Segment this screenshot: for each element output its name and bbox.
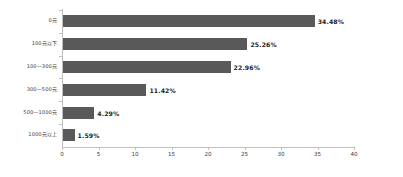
y-tick-mark [59,78,62,79]
bar[interactable] [63,84,146,96]
bar[interactable] [63,129,75,141]
y-tick-mark [59,101,62,102]
x-tick-label: 10 [131,151,138,157]
bar[interactable] [63,61,231,73]
category-label: 0元 [0,19,57,25]
bar-row: 300—500元 11.42% [0,78,403,101]
category-label: 100元以下 [0,41,57,47]
category-label: 300—500元 [0,87,57,93]
y-tick-mark [59,10,62,11]
x-tick-stem [62,147,63,150]
category-label: 500—1000元 [0,110,57,116]
x-tick-stem [172,147,173,150]
bar[interactable] [63,107,94,119]
category-label: 1000元以上 [0,133,57,139]
x-tick-label: 25 [241,151,248,157]
x-tick-stem [245,147,246,150]
x-tick-stem [354,147,355,150]
y-tick-mark [59,33,62,34]
bar-row: 1000元以上 1.59% [0,124,403,147]
bar-row: 500—1000元 4.29% [0,101,403,124]
y-tick-mark [59,124,62,125]
bar-value-label: 11.42% [149,86,175,93]
x-tick-label: 20 [204,151,211,157]
bar[interactable] [63,38,247,50]
bar-row: 0元 34.48% [0,10,403,33]
bar-rows: 0元 34.48% 100元以下 25.26% 100—300元 22.96% … [0,10,403,147]
x-tick-label: 0 [60,151,64,157]
x-tick-stem [318,147,319,150]
bar[interactable] [63,15,315,27]
bar-value-label: 1.59% [78,132,100,139]
x-tick-label: 40 [350,151,357,157]
bar-value-label: 22.96% [234,63,260,70]
bar-value-label: 4.29% [97,109,119,116]
x-tick-label: 15 [168,151,175,157]
x-tick-label: 30 [277,151,284,157]
x-tick-stem [281,147,282,150]
x-axis-ticks: 0 5 10 15 20 25 30 35 [0,147,403,167]
x-tick-label: 5 [97,151,101,157]
x-tick-label: 35 [314,151,321,157]
bar-chart: 0元 34.48% 100元以下 25.26% 100—300元 22.96% … [0,0,403,177]
x-tick-stem [99,147,100,150]
bar-row: 100元以下 25.26% [0,33,403,56]
bar-value-label: 34.48% [318,18,344,25]
x-tick-stem [208,147,209,150]
bar-row: 100—300元 22.96% [0,56,403,79]
category-label: 100—300元 [0,64,57,70]
x-tick-stem [135,147,136,150]
y-tick-mark [59,56,62,57]
bar-value-label: 25.26% [250,41,276,48]
